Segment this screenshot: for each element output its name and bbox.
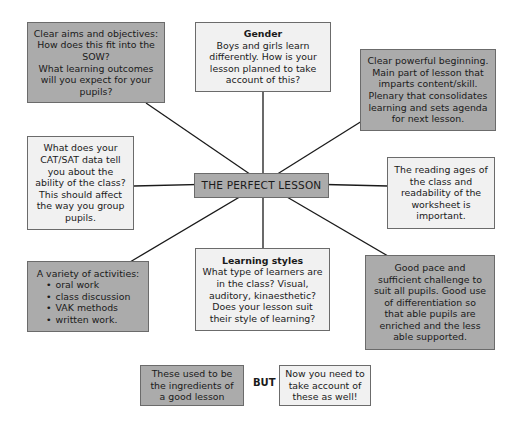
node-text: Clear aims and objectives: (34, 28, 158, 40)
node-text: This should affect (39, 189, 122, 201)
legend-text: These used to be (152, 368, 233, 380)
node-text: imparts content/skill. (379, 78, 478, 90)
node-text: the way you group (37, 200, 125, 212)
node-text: for next lesson. (392, 113, 464, 125)
node-gender: Gender Boys and girls learn differently.… (195, 22, 331, 92)
list-item: VAK methods (46, 302, 130, 314)
node-text: sufficient challenge to (378, 274, 482, 286)
node-text: able supported. (393, 331, 467, 343)
node-text: enriched and the less (379, 320, 480, 332)
node-text: The reading ages of (394, 164, 487, 176)
node-title: A variety of activities: (37, 268, 140, 280)
node-text: worksheet is (411, 199, 470, 211)
node-data: What does your CAT/SAT data tell you abo… (27, 136, 134, 230)
legend-text: the ingredients of (150, 380, 233, 392)
node-text: Plenary that consolidates (369, 90, 488, 102)
legend-new-ingredients: Now you need to take account of these as… (279, 365, 371, 406)
node-text: important. (416, 210, 465, 222)
list-item: written work. (46, 314, 130, 326)
node-text: their style of learning? (210, 313, 316, 325)
node-text: the class and (410, 176, 472, 188)
node-text: CAT/SAT data tell (40, 154, 120, 166)
node-text: auditory, kinaesthetic? (209, 290, 316, 302)
node-text: Main part of lesson that (372, 67, 483, 79)
node-text: Clear powerful beginning. (368, 55, 489, 67)
legend-text: Now you need to (285, 368, 364, 380)
list-item: oral work (46, 279, 130, 291)
node-text: suit all pupils. Good use (374, 285, 486, 297)
line-aims (146, 103, 263, 183)
node-title: Learning styles (222, 255, 303, 267)
legend-text: these as well! (292, 391, 357, 403)
node-text: pupils? (80, 86, 113, 98)
activities-list: oral work class discussion VAK methods w… (32, 279, 130, 325)
node-text: differently. How is your (209, 51, 317, 63)
node-text: learning and sets agenda (368, 102, 487, 114)
node-aims: Clear aims and objectives: How does this… (27, 22, 165, 103)
node-text: you about the (48, 166, 114, 178)
legend-connector: BUT (253, 377, 276, 388)
node-text: What type of learners are (203, 266, 323, 278)
node-structure: Clear powerful beginning. Main part of l… (360, 49, 496, 131)
node-text: readability of the (401, 187, 481, 199)
node-text: pupils. (65, 212, 96, 224)
node-text: lesson planned to take (210, 63, 316, 75)
node-text: How does this fit into the (37, 39, 155, 51)
node-text: of differentiation so (384, 297, 476, 309)
legend-text: a good lesson (160, 391, 225, 403)
center-node: THE PERFECT LESSON (194, 173, 329, 198)
node-text: in the class? Visual, (216, 278, 308, 290)
node-text: ability of the class? (35, 177, 125, 189)
node-text: What does your (43, 142, 117, 154)
node-text: will you expect for your (41, 74, 151, 86)
node-text: Boys and girls learn (217, 40, 310, 52)
node-text: Does your lesson suit (212, 301, 313, 313)
legend-text: take account of (289, 380, 362, 392)
node-text: What learning outcomes (39, 63, 154, 75)
node-learning-styles: Learning styles What type of learners ar… (195, 248, 330, 331)
node-text: that able pupils are (384, 308, 475, 320)
node-text: SOW? (82, 51, 110, 63)
list-item: class discussion (46, 291, 130, 303)
node-reading: The reading ages of the class and readab… (387, 157, 495, 229)
node-text: Good pace and (395, 262, 466, 274)
node-text: account of this? (226, 74, 300, 86)
legend-old-ingredients: These used to be the ingredients of a go… (140, 365, 244, 406)
node-pace: Good pace and sufficient challenge to su… (365, 255, 495, 350)
node-title: Gender (244, 28, 282, 40)
node-activities: A variety of activities: oral work class… (27, 261, 149, 332)
center-label: THE PERFECT LESSON (202, 180, 322, 192)
